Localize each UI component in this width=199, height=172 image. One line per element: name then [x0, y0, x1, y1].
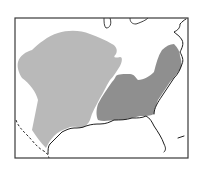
region-west	[18, 31, 122, 148]
great-lake-erie	[130, 18, 148, 24]
map	[0, 0, 199, 172]
island	[178, 136, 184, 138]
great-lake-michigan	[104, 18, 111, 28]
